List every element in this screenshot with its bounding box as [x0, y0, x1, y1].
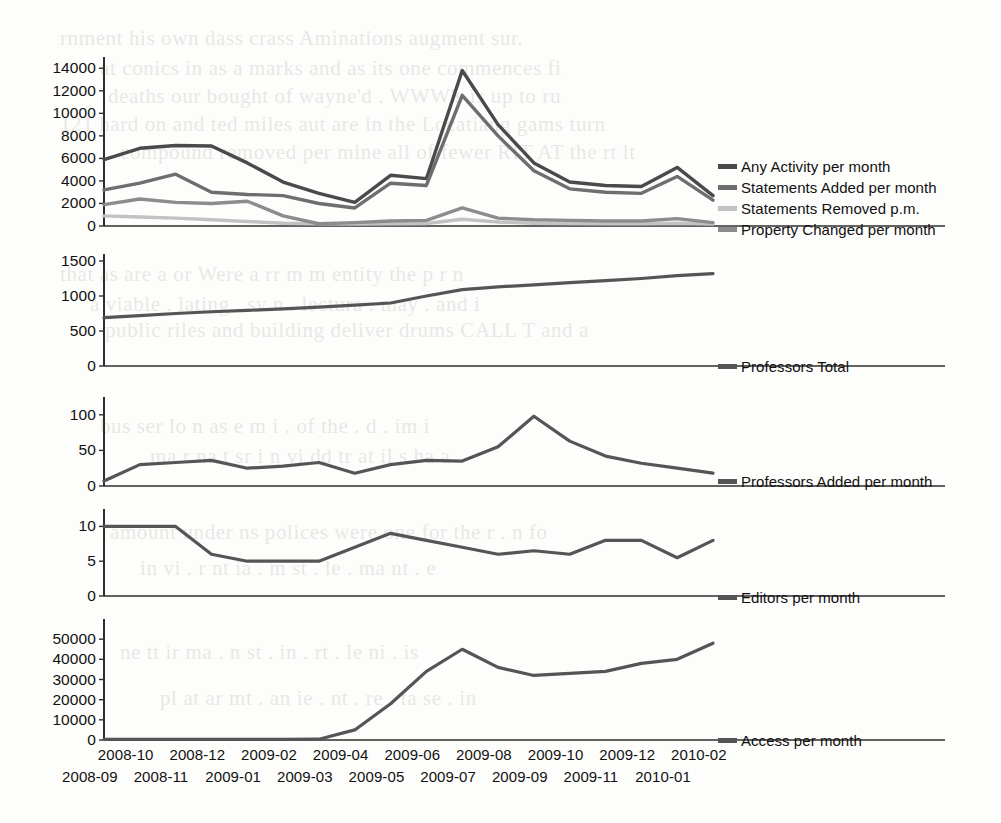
legend-label: Access per month	[741, 732, 862, 749]
legend-swatch-icon	[718, 738, 737, 743]
y-axis-tick-label: 30000	[26, 672, 96, 688]
y-axis-tick-label: 0	[26, 732, 96, 748]
y-axis-tick-label: 20000	[26, 692, 96, 708]
series-line-access-per-month	[104, 643, 713, 739]
y-axis-tick-label: 10000	[26, 712, 96, 728]
y-axis-tick-label: 50000	[26, 631, 96, 647]
access-panel	[0, 0, 1001, 823]
legend-item[interactable]: Access per month	[718, 732, 862, 749]
access-panel-plot	[0, 0, 1001, 823]
multi-panel-line-chart: 14000120001000080006000400020000Any Acti…	[0, 0, 1001, 823]
y-axis-tick-label: 40000	[26, 651, 96, 667]
